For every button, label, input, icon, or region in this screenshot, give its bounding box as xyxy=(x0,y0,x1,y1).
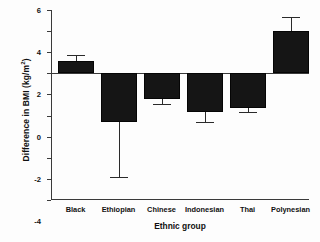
y-tick-4: -2 xyxy=(47,94,51,95)
zero-baseline xyxy=(51,73,309,74)
y-tick-8: -10 xyxy=(47,179,51,180)
y-axis-title: Difference in BMI (kg/m2) xyxy=(19,25,31,195)
bar-polynesian xyxy=(273,31,309,73)
x-axis-line xyxy=(51,199,309,200)
y-tick-2: 2 xyxy=(47,52,51,53)
y-tick-9: -12 xyxy=(47,200,51,201)
error-bar-cap xyxy=(67,55,85,56)
x-tick-label-thai: Thai xyxy=(240,205,255,214)
y-tick-label: -2 xyxy=(34,174,41,183)
error-bar-cap xyxy=(110,177,128,178)
error-bar-cap xyxy=(282,17,300,18)
error-bar-cap xyxy=(239,112,257,113)
bar-black xyxy=(58,61,94,74)
error-bar-cap xyxy=(196,122,214,123)
y-axis-line xyxy=(51,10,52,200)
x-tick-label-black: Black xyxy=(66,205,86,214)
y-tick-label: 2 xyxy=(37,90,41,99)
y-tick-label: -4 xyxy=(34,217,41,226)
error-bar-line xyxy=(291,17,292,31)
y-tick-5: -4 xyxy=(47,116,51,117)
bar-thai xyxy=(230,73,266,108)
y-tick-label: 4 xyxy=(37,48,41,57)
y-tick-3: 0 xyxy=(47,73,51,74)
y-tick-7: -8 xyxy=(47,158,51,159)
bar-chart-figure: Difference in BMI (kg/m2) 6420-2-4-6-8-1… xyxy=(0,0,320,242)
y-tick-label: 6 xyxy=(37,6,41,15)
x-tick-label-ethiopian: Ethiopian xyxy=(102,205,136,214)
error-bar-line xyxy=(119,122,120,177)
error-bar-line xyxy=(205,112,206,122)
bar-indonesian xyxy=(187,73,223,112)
y-tick-0: 6 xyxy=(47,10,51,11)
plot-area: 6420-2-4-6-8-10-12 BlackEthiopianChinese… xyxy=(51,10,309,200)
x-tick-label-polynesian: Polynesian xyxy=(271,205,310,214)
bar-chinese xyxy=(144,73,180,98)
y-axis-title-exponent: 2 xyxy=(19,61,26,65)
y-tick-1: 4 xyxy=(47,31,51,32)
y-axis-title-tail: ) xyxy=(21,58,31,61)
y-axis-title-main: Difference in BMI (kg/m xyxy=(21,65,31,162)
x-axis-title: Ethnic group xyxy=(51,221,309,231)
x-tick-label-chinese: Chinese xyxy=(147,205,176,214)
y-tick-label: 0 xyxy=(37,132,41,141)
x-tick-label-indonesian: Indonesian xyxy=(185,205,224,214)
y-tick-6: -6 xyxy=(47,137,51,138)
bar-ethiopian xyxy=(101,73,137,122)
error-bar-cap xyxy=(153,104,171,105)
